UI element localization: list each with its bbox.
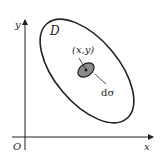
point-label: (x,y) bbox=[72, 44, 94, 55]
region-label: D bbox=[49, 24, 60, 38]
element-leader-line bbox=[95, 74, 106, 84]
origin-label: O bbox=[13, 141, 21, 152]
element-label: dσ bbox=[101, 87, 114, 98]
double-integral-region-diagram: D (x,y) dσ y x O bbox=[0, 0, 163, 166]
y-axis-label: y bbox=[14, 19, 21, 30]
x-axis-label: x bbox=[144, 141, 150, 152]
point-dot bbox=[85, 69, 88, 72]
